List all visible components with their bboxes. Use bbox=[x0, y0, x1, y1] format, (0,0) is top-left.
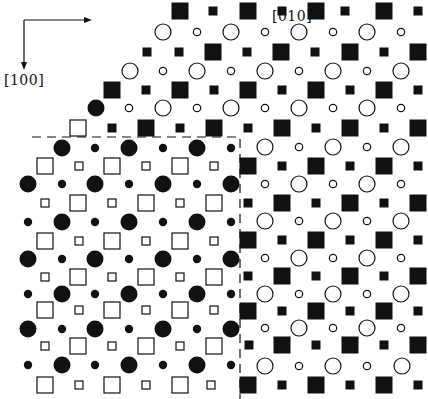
small-open-square-icon bbox=[210, 306, 218, 314]
small-open-circle-icon bbox=[295, 143, 302, 150]
large-open-circle-icon bbox=[155, 100, 171, 116]
large-open-circle-icon bbox=[359, 176, 375, 192]
small-open-circle-icon bbox=[227, 67, 234, 74]
large-filled-square-icon bbox=[376, 82, 393, 99]
large-open-circle-icon bbox=[325, 139, 341, 155]
small-filled-square-icon bbox=[414, 236, 423, 245]
large-open-circle-icon bbox=[223, 100, 239, 116]
small-filled-circle-icon bbox=[159, 361, 167, 369]
small-filled-circle-icon bbox=[193, 255, 201, 263]
small-filled-square-icon bbox=[414, 381, 423, 390]
large-open-square-icon bbox=[104, 233, 120, 249]
small-filled-circle-icon bbox=[24, 361, 32, 369]
small-open-circle-icon bbox=[363, 67, 370, 74]
small-filled-square-icon bbox=[380, 199, 389, 208]
large-filled-square-icon bbox=[342, 337, 359, 354]
large-open-square-icon bbox=[206, 338, 222, 354]
large-open-circle-icon bbox=[122, 63, 138, 79]
small-filled-square-icon bbox=[341, 7, 350, 16]
small-open-square-icon bbox=[41, 342, 49, 350]
small-filled-square-icon bbox=[414, 307, 423, 316]
large-filled-square-icon bbox=[104, 82, 121, 99]
small-open-square-icon bbox=[142, 381, 150, 389]
large-open-square-icon bbox=[206, 269, 222, 285]
small-filled-square-icon bbox=[278, 307, 287, 316]
large-open-circle-icon bbox=[359, 320, 375, 336]
lattice-atoms bbox=[0, 0, 428, 399]
small-filled-square-icon bbox=[245, 341, 254, 350]
axis-label-100: [100] bbox=[4, 72, 44, 88]
small-open-circle-icon bbox=[261, 324, 268, 331]
small-filled-circle-icon bbox=[91, 290, 99, 298]
large-open-square-icon bbox=[37, 377, 53, 393]
small-filled-square-icon bbox=[142, 86, 151, 95]
large-filled-circle-icon bbox=[54, 357, 71, 374]
small-open-circle-icon bbox=[329, 324, 336, 331]
large-open-square-icon bbox=[138, 195, 154, 211]
small-open-square-icon bbox=[75, 237, 83, 245]
large-filled-circle-icon bbox=[87, 251, 104, 268]
large-filled-square-icon bbox=[308, 82, 325, 99]
small-filled-circle-icon bbox=[227, 361, 235, 369]
small-filled-square-icon bbox=[312, 199, 321, 208]
small-filled-circle-icon bbox=[125, 180, 133, 188]
small-filled-circle-icon bbox=[159, 144, 167, 152]
large-filled-square-icon bbox=[274, 268, 291, 285]
small-filled-square-icon bbox=[143, 48, 152, 57]
large-open-circle-icon bbox=[394, 358, 410, 374]
large-open-circle-icon bbox=[291, 24, 307, 40]
large-open-circle-icon bbox=[291, 176, 307, 192]
small-open-square-icon bbox=[210, 162, 218, 170]
small-filled-square-icon bbox=[312, 272, 321, 281]
large-open-square-icon bbox=[104, 158, 120, 174]
small-open-circle-icon bbox=[329, 28, 336, 35]
large-filled-circle-icon bbox=[155, 251, 172, 268]
large-open-circle-icon bbox=[291, 320, 307, 336]
small-open-circle-icon bbox=[261, 180, 268, 187]
small-open-circle-icon bbox=[363, 290, 370, 297]
small-open-circle-icon bbox=[295, 217, 302, 224]
small-open-square-icon bbox=[108, 199, 116, 207]
large-filled-square-icon bbox=[240, 377, 257, 394]
large-open-circle-icon bbox=[393, 213, 409, 229]
large-filled-square-icon bbox=[206, 120, 223, 137]
small-filled-square-icon bbox=[414, 162, 423, 171]
small-filled-circle-icon bbox=[227, 218, 235, 226]
large-filled-square-icon bbox=[376, 377, 393, 394]
large-filled-square-icon bbox=[308, 158, 325, 175]
large-open-circle-icon bbox=[325, 63, 341, 79]
small-open-square-icon bbox=[108, 273, 116, 281]
small-open-circle-icon bbox=[363, 362, 370, 369]
small-filled-square-icon bbox=[346, 307, 355, 316]
small-open-square-icon bbox=[41, 273, 49, 281]
small-filled-square-icon bbox=[243, 48, 252, 57]
small-filled-square-icon bbox=[210, 86, 219, 95]
large-open-circle-icon bbox=[223, 24, 239, 40]
small-filled-square-icon bbox=[346, 86, 355, 95]
large-open-circle-icon bbox=[155, 24, 171, 40]
small-filled-square-icon bbox=[380, 124, 389, 133]
large-filled-square-icon bbox=[205, 44, 222, 61]
small-open-circle-icon bbox=[397, 28, 404, 35]
small-open-square-icon bbox=[210, 237, 218, 245]
large-filled-square-icon bbox=[342, 268, 359, 285]
large-filled-square-icon bbox=[240, 232, 257, 249]
large-filled-circle-icon bbox=[189, 286, 206, 303]
large-filled-square-icon bbox=[172, 82, 189, 99]
small-open-circle-icon bbox=[363, 217, 370, 224]
large-filled-square-icon bbox=[308, 377, 325, 394]
small-open-circle-icon bbox=[397, 104, 404, 111]
small-filled-circle-icon bbox=[193, 180, 201, 188]
small-filled-circle-icon bbox=[125, 255, 133, 263]
large-open-circle-icon bbox=[325, 358, 341, 374]
large-filled-square-icon bbox=[308, 303, 325, 320]
large-filled-circle-icon bbox=[20, 176, 37, 193]
small-open-circle-icon bbox=[329, 180, 336, 187]
small-open-circle-icon bbox=[329, 104, 336, 111]
small-open-square-icon bbox=[142, 162, 150, 170]
large-open-circle-icon bbox=[393, 139, 409, 155]
large-filled-square-icon bbox=[376, 3, 393, 20]
large-filled-circle-icon bbox=[189, 357, 206, 374]
large-filled-square-icon bbox=[240, 158, 257, 175]
crystal-lattice-diagram: [010] [100] bbox=[0, 0, 428, 399]
